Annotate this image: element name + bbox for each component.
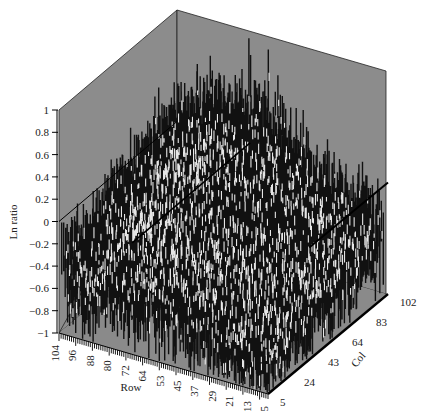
row-tick-label: 53 <box>154 375 166 387</box>
row-tick-label: 104 <box>49 345 61 362</box>
z-tick-label: 0.2 <box>35 193 49 205</box>
col-tick-label: 83 <box>376 316 388 328</box>
z-tick-label: −0.8 <box>29 305 49 317</box>
z-tick-label: 0.4 <box>35 171 49 183</box>
row-tick-label: 29 <box>206 390 218 402</box>
row-tick-label: 72 <box>119 365 131 376</box>
row-tick-label: 45 <box>171 380 183 392</box>
row-tick-label: 13 <box>241 400 253 411</box>
z-tick-label: 1 <box>44 104 50 116</box>
col-tick-label: 24 <box>304 376 316 388</box>
z-tick-label: −1 <box>37 327 49 339</box>
row-axis-title: Row <box>121 381 142 393</box>
surface-plot: 10.80.60.40.20−0.2−0.4−0.6−0.8−1 1049688… <box>0 0 430 411</box>
col-tick-label: 43 <box>328 356 340 368</box>
row-tick-label: 88 <box>84 355 96 367</box>
z-axis-title: Ln ratio <box>7 204 19 240</box>
z-tick-label: −0.6 <box>29 282 49 294</box>
z-tick-label: −0.4 <box>29 260 49 272</box>
row-tick-label: 5 <box>258 406 270 411</box>
z-tick-label: 0 <box>44 216 50 228</box>
row-tick-label: 37 <box>188 385 200 397</box>
col-tick-label: 102 <box>400 296 417 308</box>
row-tick-label: 64 <box>136 370 148 382</box>
col-axis-title: Col <box>348 349 367 369</box>
row-tick-label: 21 <box>223 396 235 407</box>
col-tick-label: 64 <box>352 336 364 348</box>
row-tick-label: 80 <box>101 360 113 372</box>
col-tick-label: 5 <box>280 396 286 408</box>
z-axis: 10.80.60.40.20−0.2−0.4−0.6−0.8−1 <box>29 104 58 339</box>
z-tick-label: 0.6 <box>35 149 49 161</box>
z-tick-label: 0.8 <box>35 126 49 138</box>
row-tick-label: 96 <box>66 350 78 362</box>
z-tick-label: −0.2 <box>29 238 49 250</box>
